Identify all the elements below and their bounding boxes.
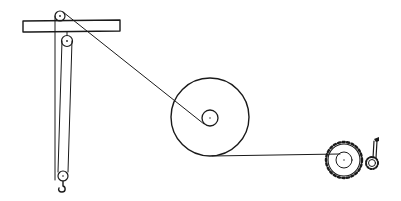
rope-to-axle [63, 12, 204, 124]
movable-pulley [58, 171, 68, 192]
crank-arm [376, 141, 377, 158]
gear-wheel [326, 142, 362, 178]
beam [23, 20, 120, 32]
pinion-crank [366, 137, 379, 169]
hoist-ropes [55, 16, 72, 180]
crank-handle-icon [374, 137, 379, 142]
lower-fixed-pulley [62, 32, 73, 47]
hook-icon [59, 181, 66, 192]
wheel-and-axle [171, 78, 249, 156]
crank-arm [373, 141, 374, 158]
rope-to-gear [212, 154, 340, 156]
diagram-canvas: Pulley and winch system: fixed beam with… [0, 0, 401, 201]
